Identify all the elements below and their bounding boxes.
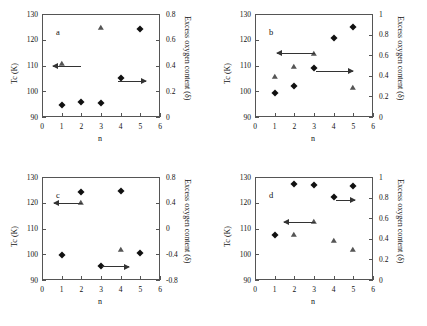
annotation-arrow-right <box>102 266 129 267</box>
y-right-tick <box>156 177 160 178</box>
y-left-tick <box>255 91 259 92</box>
data-point-triangle <box>98 25 104 30</box>
annotation-arrow-right <box>118 81 147 82</box>
y-left-tick <box>42 66 46 67</box>
x-tick-label: 2 <box>290 123 298 131</box>
y-right-tick-label: 0.4 <box>166 199 175 207</box>
y-right-tick-label: 0.6 <box>166 36 175 44</box>
x-tick <box>121 113 122 117</box>
y-right-tick-label: 0 <box>379 277 383 285</box>
y-left-tick <box>42 203 46 204</box>
x-tick <box>373 276 374 280</box>
y-left-tick <box>42 177 46 178</box>
y-left-axis-title: Tc (K) <box>10 226 19 247</box>
x-tick <box>81 113 82 117</box>
y-right-tick-label: 0.8 <box>166 11 175 19</box>
data-point-triangle <box>350 85 356 90</box>
y-right-tick <box>369 177 373 178</box>
x-tick-label: 3 <box>97 123 105 131</box>
panel-letter-c: c <box>56 190 60 200</box>
x-tick <box>334 113 335 117</box>
y-right-tick-label: 1 <box>379 174 383 182</box>
x-axis-title: n <box>98 134 102 143</box>
y-left-tick-label: 100 <box>229 251 251 259</box>
y-left-tick-label: 120 <box>229 199 251 207</box>
x-tick-label: 1 <box>58 286 66 294</box>
y-right-tick <box>369 259 373 260</box>
y-right-tick <box>369 96 373 97</box>
y-left-tick <box>255 66 259 67</box>
panel-b: 0123456n90100110120130Tc (K)00.20.40.60.… <box>213 0 426 163</box>
panel-c: 0123456n90100110120130Tc (K)-0.8-0.400.4… <box>0 163 213 326</box>
y-left-tick <box>255 203 259 204</box>
x-tick-label: 0 <box>251 123 259 131</box>
y-left-tick-label: 110 <box>229 62 251 70</box>
data-point-triangle <box>271 74 277 79</box>
y-right-tick-label: -0.4 <box>166 251 178 259</box>
panel-d: 0123456n90100110120130Tc (K)00.20.40.60.… <box>213 163 426 326</box>
x-tick-label: 2 <box>77 123 85 131</box>
panel-a: 0123456n90100110120130Tc (K)00.20.40.60.… <box>0 0 213 163</box>
x-tick <box>140 276 141 280</box>
y-right-axis-title: Excess oxygen content (δ) <box>183 16 192 100</box>
x-tick <box>314 113 315 117</box>
x-tick-label: 1 <box>271 123 279 131</box>
y-left-tick <box>255 280 259 281</box>
y-right-tick <box>369 280 373 281</box>
y-left-tick <box>255 117 259 118</box>
x-tick-label: 3 <box>97 286 105 294</box>
annotation-arrow-right <box>316 71 353 72</box>
x-tick-label: 0 <box>38 123 46 131</box>
x-tick-label: 4 <box>330 123 338 131</box>
x-tick <box>160 276 161 280</box>
y-left-tick <box>255 229 259 230</box>
y-left-tick-label: 120 <box>16 199 38 207</box>
y-left-tick-label: 110 <box>16 62 38 70</box>
y-left-tick-label: 130 <box>229 11 251 19</box>
y-right-tick-label: 0.6 <box>379 52 388 60</box>
y-right-tick <box>156 254 160 255</box>
x-tick <box>353 276 354 280</box>
x-tick-label: 3 <box>310 123 318 131</box>
y-right-tick <box>156 280 160 281</box>
x-tick-label: 6 <box>156 286 164 294</box>
data-point-triangle <box>291 63 297 68</box>
annotation-arrow-left <box>284 222 315 223</box>
x-tick-label: 4 <box>117 123 125 131</box>
y-right-axis-title: Excess oxygen content (δ) <box>183 179 192 263</box>
y-left-tick <box>42 254 46 255</box>
annotation-arrow-left <box>277 53 315 54</box>
y-right-tick <box>156 117 160 118</box>
y-left-axis-title: Tc (K) <box>223 63 232 84</box>
y-left-tick <box>42 229 46 230</box>
y-right-tick-label: 0.4 <box>379 72 388 80</box>
y-right-tick <box>369 198 373 199</box>
x-tick <box>62 113 63 117</box>
x-tick <box>160 113 161 117</box>
y-right-axis-title: Excess oxygen content (δ) <box>396 179 405 263</box>
y-left-axis-title: Tc (K) <box>223 226 232 247</box>
panel-letter-d: d <box>269 190 273 200</box>
y-right-tick <box>156 91 160 92</box>
y-right-tick <box>369 76 373 77</box>
x-tick-label: 2 <box>290 286 298 294</box>
y-left-tick-label: 130 <box>16 11 38 19</box>
y-left-tick-label: 90 <box>16 277 38 285</box>
x-tick-label: 0 <box>251 286 259 294</box>
x-tick-label: 5 <box>349 123 357 131</box>
x-tick-label: 5 <box>349 286 357 294</box>
y-left-tick <box>255 254 259 255</box>
panel-letter-a: a <box>56 27 60 37</box>
x-tick-label: 0 <box>38 286 46 294</box>
y-right-axis-title: Excess oxygen content (δ) <box>396 16 405 100</box>
panel-letter-b: b <box>269 27 273 37</box>
x-tick <box>294 276 295 280</box>
y-right-tick-label: 0 <box>166 225 170 233</box>
x-axis-title: n <box>311 297 315 306</box>
x-tick-label: 6 <box>156 123 164 131</box>
x-tick-label: 6 <box>369 286 377 294</box>
y-right-tick-label: 0.4 <box>166 62 175 70</box>
y-right-tick <box>369 239 373 240</box>
x-tick <box>353 113 354 117</box>
y-left-tick-label: 100 <box>16 251 38 259</box>
